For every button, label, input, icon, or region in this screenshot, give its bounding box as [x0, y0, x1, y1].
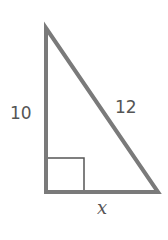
- triangle: [46, 28, 158, 192]
- horizontal-leg-label: x: [97, 199, 107, 217]
- vertical-leg-label: 10: [10, 105, 32, 122]
- hypotenuse-label: 12: [115, 99, 137, 116]
- right-angle-marker: [48, 158, 84, 190]
